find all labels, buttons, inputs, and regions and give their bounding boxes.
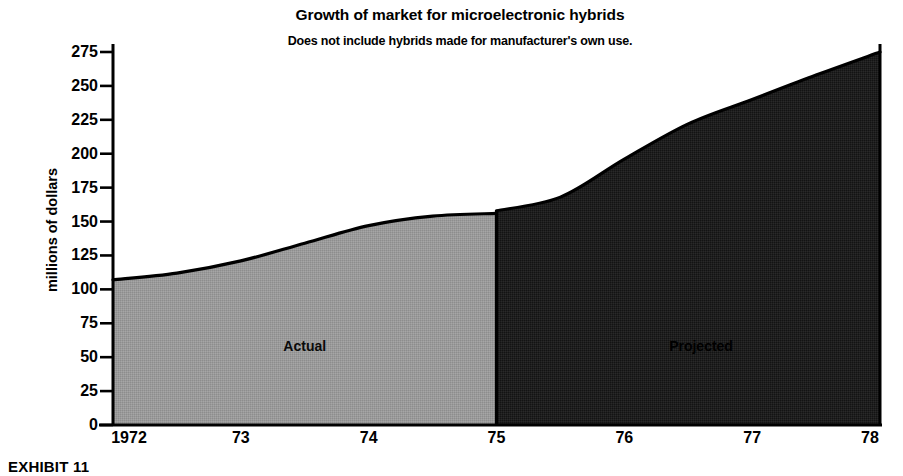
y-tick-label: 175 [38, 180, 98, 196]
y-tick-label: 200 [38, 146, 98, 162]
exhibit-caption: EXHIBIT 11 [8, 458, 89, 475]
y-tick-label: 225 [38, 112, 98, 128]
x-tick-label: 75 [488, 430, 506, 446]
chart-title: Growth of market for microelectronic hyb… [160, 6, 760, 24]
x-tick-label: 76 [615, 430, 633, 446]
y-tick-label: 0 [38, 417, 98, 433]
y-tick-label: 275 [38, 44, 98, 60]
x-tick-label: 74 [360, 430, 378, 446]
y-tick-label: 250 [38, 78, 98, 94]
y-tick-label: 100 [38, 281, 98, 297]
y-axis-tick-labels: 0255075100125150175200225250275 [36, 0, 98, 476]
x-tick-label: 73 [232, 430, 250, 446]
area-series-actual [113, 213, 497, 425]
y-tick-label: 50 [38, 349, 98, 365]
region-label-actual: Actual [283, 338, 326, 354]
y-tick-label: 150 [38, 214, 98, 230]
region-label-projected: Projected [669, 338, 733, 354]
x-tick-label: 78 [861, 430, 879, 446]
y-tick-label: 125 [38, 247, 98, 263]
y-tick-label: 25 [38, 383, 98, 399]
chart-subtitle: Does not include hybrids made for manufa… [160, 34, 760, 48]
x-tick-label: 1972 [111, 430, 147, 446]
y-tick-label: 75 [38, 315, 98, 331]
area-series-projected [497, 52, 881, 425]
chart-figure: Growth of market for microelectronic hyb… [0, 0, 903, 476]
plot-area [0, 0, 903, 476]
x-tick-label: 77 [743, 430, 761, 446]
